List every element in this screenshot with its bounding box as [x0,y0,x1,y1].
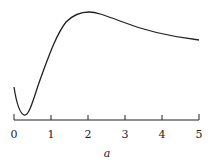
x-axis-label: a [104,147,111,160]
data-curve [14,12,199,115]
x-tick-label: 3 [122,128,129,141]
x-tick-label: 1 [48,128,55,141]
x-tick-label: 5 [196,128,203,141]
x-axis: 0 1 2 3 4 5 a [11,114,203,160]
chart: 0 1 2 3 4 5 a [0,0,211,166]
x-tick-label: 4 [159,128,166,141]
x-tick-label: 0 [11,128,18,141]
x-tick-label: 2 [85,128,92,141]
